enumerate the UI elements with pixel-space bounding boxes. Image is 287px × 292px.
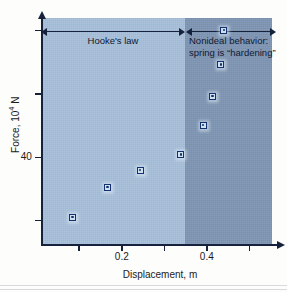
data-point [137,167,144,174]
data-point [104,184,111,191]
region-hookes-law [41,18,185,246]
figure-container: Hooke's law Nonideal behavior: spring is… [0,0,287,292]
data-point [69,214,76,221]
annotation-label-nonideal-line2: spring is “hardening” [189,47,276,59]
y-tick-30 [35,220,43,222]
annotation-label-nonideal: Nonideal behavior: spring is “hardening” [189,35,276,58]
y-tick-50 [35,93,43,95]
page-rule-top [0,285,287,286]
y-axis-line [41,18,43,246]
y-axis-arrowhead [38,11,46,19]
annotation-label-hookes-law: Hooke's law [45,35,181,47]
x-tick-label-0.4: 0.4 [192,251,222,262]
x-tick-0.3 [164,244,166,251]
data-point [220,27,227,34]
y-axis-title-unit: N [10,96,21,106]
x-axis-arrowhead [277,241,285,249]
data-point [217,61,224,68]
page-rule-bottom [0,289,287,290]
y-axis-title: Force, 104 N [7,75,20,175]
data-point [209,93,216,100]
y-axis-title-base: Force, 10 [10,111,21,153]
annotation-arrow-hookes-law [45,31,181,32]
x-axis-line [41,244,279,246]
data-point [200,122,207,129]
data-point [177,151,184,158]
y-tick-60 [35,30,43,32]
x-tick-0.2 [121,244,123,251]
y-axis-title-exponent: 4 [7,106,16,110]
x-tick-0.5 [249,244,251,251]
x-axis-title: Displacement, m [41,269,279,280]
x-tick-0.4 [206,244,208,251]
y-tick-40 [35,157,43,159]
annotation-arrow-nonideal [190,31,272,32]
x-tick-label-0.2: 0.2 [107,251,137,262]
annotation-label-nonideal-line1: Nonideal behavior: [189,35,276,47]
x-tick-0.1 [78,244,80,251]
